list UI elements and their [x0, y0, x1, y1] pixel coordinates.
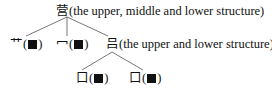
grass-char: 艹 — [10, 37, 23, 51]
filled-square-icon — [28, 40, 37, 49]
edge-lv-to-mouth-2 — [112, 52, 143, 70]
filled-square-icon — [74, 40, 83, 49]
node-mouth-2: 口() — [129, 71, 161, 85]
filled-square-icon — [147, 74, 156, 83]
filled-square-icon — [94, 74, 103, 83]
mouth-char: 口 — [76, 71, 89, 85]
mouth-char: 口 — [129, 71, 142, 85]
node-mouth-1: 口() — [76, 71, 108, 85]
cover-char: 冖 — [56, 37, 69, 51]
edge-root-to-lv — [67, 17, 108, 36]
lv-desc: (the upper and lower structure) — [119, 37, 272, 51]
lv-char: 吕 — [106, 37, 119, 51]
root-desc: (the upper, middle and lower structure) — [69, 4, 264, 18]
node-cover: 冖() — [56, 37, 88, 51]
node-lv: 吕(the upper and lower structure) — [106, 37, 272, 51]
edge-root-to-grass — [26, 17, 67, 36]
edge-lv-to-mouth-1 — [82, 52, 112, 70]
root-node: 营(the upper, middle and lower structure) — [56, 4, 264, 18]
node-grass: 艹() — [10, 37, 42, 51]
root-char: 营 — [56, 4, 69, 18]
